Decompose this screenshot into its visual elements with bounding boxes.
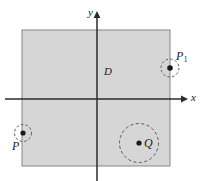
point-label-p1-subscript: 1 [184,55,188,64]
point-label-q: Q [144,137,153,149]
point-label-p1: P1 [176,50,188,63]
domain-region-label: D [104,66,112,77]
point-label-p1-base: P [176,49,183,63]
math-figure: y x D P P1 Q [0,0,206,181]
point-marker-p1 [167,65,173,71]
x-axis-label: x [191,92,196,103]
y-axis-label: y [88,7,93,18]
point-label-p: P [12,140,19,152]
point-marker-p [20,130,25,135]
figure-canvas [0,0,206,181]
y-axis-arrowhead [94,11,101,18]
x-axis-arrowhead [181,96,188,103]
point-marker-q [136,140,141,145]
